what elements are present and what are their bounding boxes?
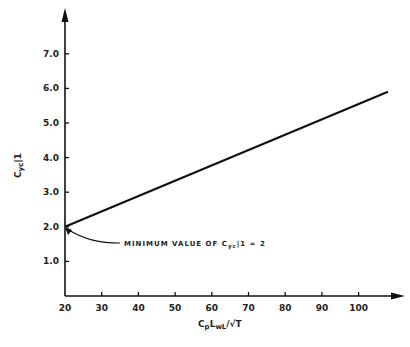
x-ticks: 2030405060708090100 bbox=[59, 292, 368, 313]
axes bbox=[65, 14, 398, 296]
y-tick-label: 1.0 bbox=[43, 256, 59, 266]
x-tick-label: 60 bbox=[206, 303, 219, 313]
series bbox=[65, 92, 388, 227]
x-tick-label: 100 bbox=[349, 303, 368, 313]
x-tick-label: 20 bbox=[59, 303, 72, 313]
chart: 2030405060708090100 1.02.03.04.05.06.07.… bbox=[0, 0, 410, 347]
x-tick-label: 30 bbox=[95, 303, 108, 313]
x-tick-label: 40 bbox=[132, 303, 145, 313]
y-axis-arrow-icon bbox=[62, 8, 69, 22]
annotation-leader bbox=[67, 229, 120, 243]
y-axis-label: Cyc|1 bbox=[13, 153, 25, 178]
annotation-arrow-icon bbox=[65, 227, 72, 235]
x-tick-label: 90 bbox=[316, 303, 329, 313]
x-axis-arrow-icon bbox=[391, 293, 405, 300]
x-tick-label: 70 bbox=[242, 303, 255, 313]
x-tick-label: 50 bbox=[169, 303, 182, 313]
y-tick-label: 7.0 bbox=[43, 49, 59, 59]
y-tick-label: 6.0 bbox=[43, 83, 59, 93]
y-tick-label: 5.0 bbox=[43, 118, 59, 128]
y-tick-label: 3.0 bbox=[43, 187, 59, 197]
x-tick-label: 80 bbox=[279, 303, 292, 313]
annotation-text: MINIMUM VALUE OF Cyc|1 = 2 bbox=[124, 240, 266, 250]
x-axis-label: CpLwL/√T bbox=[198, 319, 243, 331]
y-tick-label: 2.0 bbox=[43, 222, 59, 232]
series-line bbox=[65, 92, 388, 227]
y-tick-label: 4.0 bbox=[43, 153, 59, 163]
